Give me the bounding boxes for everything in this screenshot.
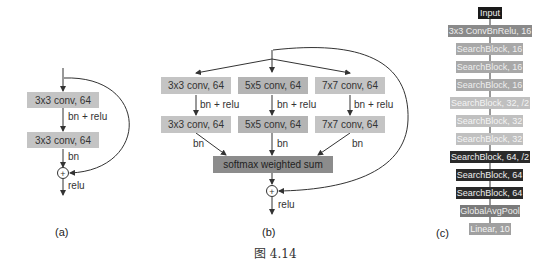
caption-a: (a) (55, 226, 68, 238)
conv-layer-1: 3x3 conv, 64 (27, 92, 99, 108)
layer-linear: Linear, 10 (469, 223, 511, 235)
edge-label-3x3-mid: bn + relu (200, 99, 239, 110)
layer-searchblock-64a: SearchBlock, 64 (456, 169, 523, 181)
branch-7x7-top: 7x7 conv, 64 (315, 77, 385, 94)
layer-searchblock-16b: SearchBlock, 16 (456, 61, 523, 73)
layer-conv-bn-relu: 3x3 ConvBnRelu, 16 (448, 25, 532, 37)
branch-5x5-bottom: 5x5 conv, 64 (238, 116, 308, 133)
edge-label-relu-b: relu (278, 199, 295, 210)
caption-b: (b) (262, 226, 275, 238)
layer-input: Input (478, 7, 502, 19)
edge-label-5x5-out: bn (277, 138, 288, 149)
layer-searchblock-32a: SearchBlock, 32 (456, 115, 523, 127)
caption-c: (c) (436, 227, 449, 239)
layer-searchblock-16a: SearchBlock, 16 (456, 43, 523, 55)
softmax-weighted-sum: softmax weighted sum (213, 156, 333, 173)
edge-label-5x5-mid: bn + relu (277, 99, 316, 110)
edge-label-bn-relu: bn + relu (68, 111, 107, 122)
branch-7x7-bottom: 7x7 conv, 64 (315, 116, 385, 133)
branch-5x5-top: 5x5 conv, 64 (238, 77, 308, 94)
edge-label-3x3-out: bn (193, 138, 204, 149)
layer-searchblock-32-stride: SearchBlock, 32, /2 (450, 97, 530, 109)
svg-text:+: + (269, 187, 274, 197)
branch-3x3-top: 3x3 conv, 64 (161, 77, 231, 94)
conv-layer-2: 3x3 conv, 64 (27, 132, 99, 148)
edge-label-7x7-mid: bn + relu (354, 99, 393, 110)
layer-searchblock-16c: SearchBlock, 16 (456, 79, 523, 91)
layer-searchblock-64-stride: SearchBlock, 64, /2 (450, 151, 530, 163)
layer-searchblock-32b: SearchBlock, 32 (456, 133, 523, 145)
layer-searchblock-64b: SearchBlock, 64 (456, 187, 523, 199)
branch-3x3-bottom: 3x3 conv, 64 (161, 116, 231, 133)
edge-label-relu: relu (68, 180, 85, 191)
layer-global-avg-pool: GlobalAvgPool (460, 205, 520, 217)
edge-label-bn: bn (68, 151, 79, 162)
figure-caption: 图 4.14 (254, 244, 297, 261)
edge-label-7x7-out: bn (352, 138, 363, 149)
svg-text:+: + (60, 169, 65, 179)
